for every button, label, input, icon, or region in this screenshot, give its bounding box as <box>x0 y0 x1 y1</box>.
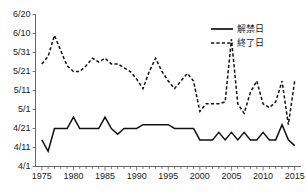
x-axis-labels: 197519801985199019952000200520102015 <box>32 171 305 181</box>
y-tick-label: 6/10 <box>13 28 31 38</box>
y-tick-label: 5/1 <box>18 104 31 114</box>
x-tick-label: 1995 <box>158 171 178 181</box>
x-axis-tick-group <box>42 167 295 171</box>
series-line-open-date <box>42 117 295 151</box>
chart-legend: 解禁日終了日 <box>211 23 264 48</box>
x-tick-label: 2000 <box>190 171 210 181</box>
legend-label: 終了日 <box>237 37 264 48</box>
x-tick-label: 2005 <box>221 171 241 181</box>
x-tick-label: 1985 <box>95 171 115 181</box>
line-chart: 4/14/114/215/15/115/215/316/106/20 19751… <box>0 0 306 192</box>
y-tick-label: 5/31 <box>13 47 31 57</box>
x-tick-label: 1990 <box>127 171 147 181</box>
y-tick-label: 6/20 <box>13 9 31 19</box>
y-axis-labels: 4/14/114/215/15/115/215/316/106/20 <box>13 9 31 171</box>
y-tick-label: 4/21 <box>13 123 31 133</box>
x-tick-label: 1980 <box>63 171 83 181</box>
y-tick-label: 5/21 <box>13 66 31 76</box>
series-group <box>42 35 295 151</box>
x-tick-label: 1975 <box>32 171 52 181</box>
x-tick-label: 2010 <box>253 171 273 181</box>
y-tick-label: 4/11 <box>14 142 31 152</box>
y-tick-label: 4/1 <box>18 161 31 171</box>
x-tick-label: 2015 <box>285 171 305 181</box>
series-line-end-date <box>42 35 295 124</box>
y-tick-label: 5/11 <box>14 85 31 95</box>
chart-container: 4/14/114/215/15/115/215/316/106/20 19751… <box>0 0 306 192</box>
legend-label: 解禁日 <box>237 23 264 34</box>
